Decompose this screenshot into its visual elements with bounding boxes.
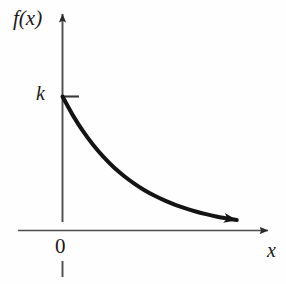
exponential-decay-figure: f(x) k 0 x [0, 0, 286, 284]
y-axis-label: f(x) [13, 8, 42, 29]
figure-canvas [0, 0, 286, 284]
exponential-decay-curve [63, 97, 237, 221]
x-axis-label: x [267, 240, 276, 260]
y-intercept-label: k [36, 83, 45, 103]
origin-label: 0 [55, 236, 66, 257]
